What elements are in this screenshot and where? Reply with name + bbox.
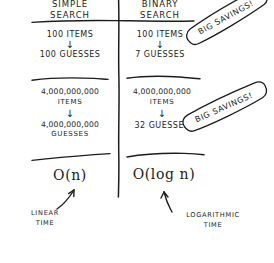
cell-simple-row2-output: 4,000,000,000 (28, 121, 112, 129)
cell-simple-row1: 100 ITEMS ↓ 100 GUESSES (30, 31, 110, 59)
handdrawn-comparison-diagram: SIMPLE SEARCH BINARY SEARCH 100 ITEMS ↓ … (0, 0, 274, 263)
annotation-logarithmic-time-line2: TIME (175, 221, 251, 231)
cell-simple-row2-input: 4,000,000,000 (28, 88, 112, 96)
row1-rule-right (126, 73, 202, 83)
row1-rule-left (30, 74, 110, 84)
down-arrow-icon: ↓ (30, 40, 110, 50)
cell-binary-row1-output: 7 GUESSES (122, 51, 198, 59)
cell-simple-row2: 4,000,000,000 ITEMS ↓ 4,000,000,000 GUES… (28, 88, 112, 138)
cell-binary-row2-input: 4,000,000,000 (122, 88, 202, 96)
cell-simple-row1-output: 100 GUESSES (30, 51, 110, 59)
cell-simple-row2-input-unit: ITEMS (28, 99, 112, 106)
down-arrow-icon: ↓ (28, 109, 112, 119)
column-header-binary-search-line1: BINARY (122, 0, 198, 9)
annotation-linear-time-line1: LINEAR (16, 209, 74, 219)
annotation-linear-time-line2: TIME (16, 219, 74, 229)
annotation-logarithmic-time: LOGARITHMIC TIME (175, 211, 251, 230)
cell-binary-row2-input-unit: ITEMS (122, 99, 202, 106)
annotation-linear-time: LINEAR TIME (16, 209, 74, 228)
row2-rule-right (126, 150, 206, 162)
header-rule (30, 16, 196, 26)
complexity-binary-search: O(log n) (122, 167, 206, 181)
column-header-simple-search-line1: SIMPLE (32, 0, 108, 9)
complexity-simple-search: O(n) (30, 168, 110, 182)
cell-simple-row2-output-unit: GUESSES (28, 131, 112, 138)
cell-simple-row1-input: 100 ITEMS (30, 31, 110, 39)
row2-rule-left (30, 151, 112, 163)
annotation-logarithmic-time-line1: LOGARITHMIC (175, 211, 251, 221)
